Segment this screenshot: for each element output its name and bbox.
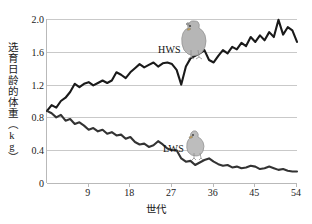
x-tick-label: 45 <box>249 187 259 198</box>
y-tick-label: 1.2 <box>32 79 45 90</box>
series-line-lws <box>47 111 297 172</box>
y-axis-title: 选育日龄的体重（kg） <box>2 12 20 192</box>
x-axis-tick-labels: 91827364554 <box>46 183 296 201</box>
series-label-hws: HWS <box>158 44 181 55</box>
y-tick-label: 1.6 <box>32 46 45 57</box>
x-tick-label: 18 <box>124 187 134 198</box>
series-line-hws <box>47 20 297 111</box>
y-tick-label: 0 <box>39 178 44 189</box>
x-axis-title: 世代 <box>0 201 312 216</box>
series-label-lws: LWS <box>163 143 184 154</box>
x-tick-label: 36 <box>208 187 218 198</box>
weight-selection-line-chart: 选育日龄的体重（kg） 00.40.81.21.62.0 91827364554… <box>0 0 312 224</box>
x-tick-label: 54 <box>291 187 301 198</box>
x-tick-label: 27 <box>166 187 176 198</box>
y-tick-label: 0.8 <box>32 112 45 123</box>
x-tick-label: 9 <box>85 187 90 198</box>
y-axis-tick-labels: 00.40.81.21.62.0 <box>20 0 44 224</box>
y-tick-label: 2.0 <box>32 14 45 25</box>
y-tick-label: 0.4 <box>32 145 45 156</box>
